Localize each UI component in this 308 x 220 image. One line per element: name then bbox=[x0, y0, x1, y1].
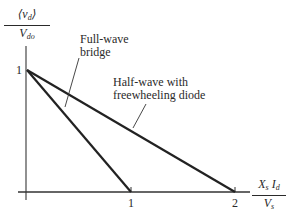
annotation-half-wave-freewheeling: Half-wave with freewheeling diode bbox=[113, 76, 205, 102]
x-axis-label-denominator: Vs bbox=[252, 196, 286, 213]
x-axis-label-numerator: Xs Id bbox=[252, 178, 286, 196]
annotation-full-wave-line2: bridge bbox=[80, 46, 129, 59]
annotation-full-wave-bridge: Full-wave bridge bbox=[80, 33, 129, 59]
x-axis-label: Xs Id Vs bbox=[252, 178, 286, 213]
x-tick-1: 1 bbox=[128, 197, 134, 209]
annotation-half-wave-line2: freewheeling diode bbox=[113, 89, 205, 102]
y-axis-label-numerator: ⟨vd⟩ bbox=[4, 8, 50, 26]
y-axis-label-denominator: Vdo bbox=[4, 26, 50, 43]
x-tick-2: 2 bbox=[232, 197, 238, 209]
y-axis-label: ⟨vd⟩ Vdo bbox=[4, 8, 50, 43]
y-tick-1: 1 bbox=[16, 64, 22, 76]
annotation-pointer-half-wave bbox=[133, 104, 146, 128]
